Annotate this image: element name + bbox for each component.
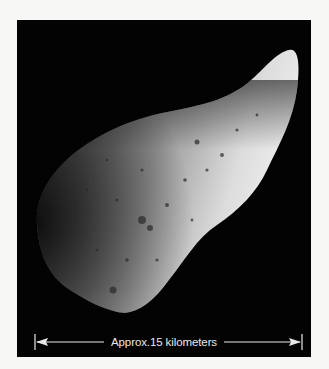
asteroid-image [17, 20, 311, 357]
asteroid-photo: Approx.15 kilometers [17, 20, 311, 357]
scale-bar [35, 334, 302, 350]
